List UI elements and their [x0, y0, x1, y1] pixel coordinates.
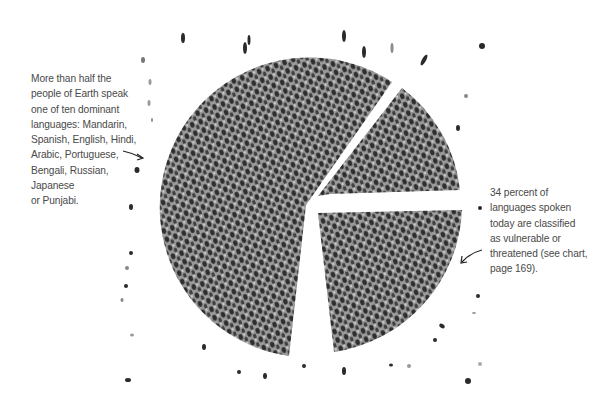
caption-line: threatened (see chart, [490, 246, 587, 261]
caption-line: Japanese [31, 178, 136, 193]
caption-line: Spanish, English, Hindi, [31, 132, 136, 147]
caption-line: 34 percent of [490, 185, 587, 200]
caption-line: one of ten dominant [31, 102, 136, 117]
caption-line: today are classified [490, 216, 587, 231]
annotation-vulnerable-languages: 34 percent of languages spoken today are… [490, 185, 587, 277]
caption-line: More than half the [31, 71, 136, 86]
caption-line: page 169). [490, 261, 587, 276]
arrow-right-annotation [461, 250, 482, 263]
caption-line: as vulnerable or [490, 231, 587, 246]
caption-line: people of Earth speak [31, 86, 136, 101]
caption-line: Arabic, Portuguese, [31, 147, 136, 162]
caption-line: languages spoken [490, 200, 587, 215]
pie-slice-vulnerable-lower [318, 210, 462, 352]
annotation-dominant-languages: More than half the people of Earth speak… [31, 71, 136, 209]
caption-line: or Punjabi. [31, 193, 136, 208]
caption-line: Bengali, Russian, [31, 163, 136, 178]
caption-line: languages: Mandarin, [31, 117, 136, 132]
